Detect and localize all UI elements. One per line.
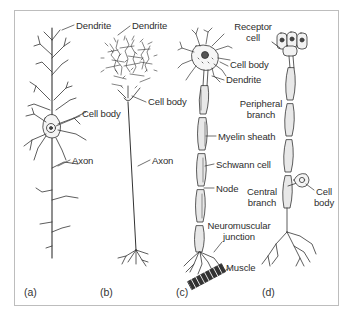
label-c-neuromuscular-junction: Neuromuscular junction [204, 220, 274, 242]
label-c-cell-body: Cell body [230, 59, 269, 70]
label-d-peripheral-branch: Peripheral branch [236, 98, 286, 120]
label-c-schwann-cell: Schwann cell [216, 159, 271, 170]
label-a-cell-body: Cell body [82, 108, 121, 119]
label-c-muscle: Muscle [226, 262, 256, 273]
panel-label-c: (c) [176, 286, 188, 298]
label-d-receptor-line2: cell [232, 32, 274, 43]
label-a-dendrite: Dendrite [76, 20, 111, 31]
label-b-cell-body: Cell body [148, 96, 187, 107]
label-b-dendrite: Dendrite [132, 20, 167, 31]
panel-label-b: (b) [100, 286, 113, 298]
label-c-dendrite: Dendrite [226, 74, 261, 85]
label-d-cell-body-line2: body [310, 197, 338, 208]
panel-label-a: (a) [24, 286, 37, 298]
label-a-axon: Axon [72, 155, 93, 166]
label-d-central-line1: Central [242, 186, 282, 197]
label-c-myelin-sheath: Myelin sheath [218, 131, 275, 142]
label-c-neuromuscular-line1: Neuromuscular [204, 220, 274, 231]
label-d-cell-body: Cell body [310, 186, 338, 208]
label-d-peripheral-line1: Peripheral [236, 98, 286, 109]
label-d-central-branch: Central branch [242, 186, 282, 208]
label-d-cell-body-line1: Cell [310, 186, 338, 197]
label-d-receptor-line1: Receptor [232, 21, 274, 32]
label-c-node: Node [216, 183, 238, 194]
label-d-central-line2: branch [242, 197, 282, 208]
panel-label-d: (d) [262, 286, 275, 298]
leader-lines [56, 25, 314, 272]
label-b-axon: Axon [152, 155, 173, 166]
neuron-illustrations [0, 0, 356, 323]
label-d-receptor-cell: Receptor cell [232, 21, 274, 43]
neuron-a-drawing [24, 28, 86, 258]
label-c-neuromuscular-line2: junction [204, 231, 274, 242]
label-d-peripheral-line2: branch [236, 109, 286, 120]
neuron-b-drawing [101, 34, 157, 266]
